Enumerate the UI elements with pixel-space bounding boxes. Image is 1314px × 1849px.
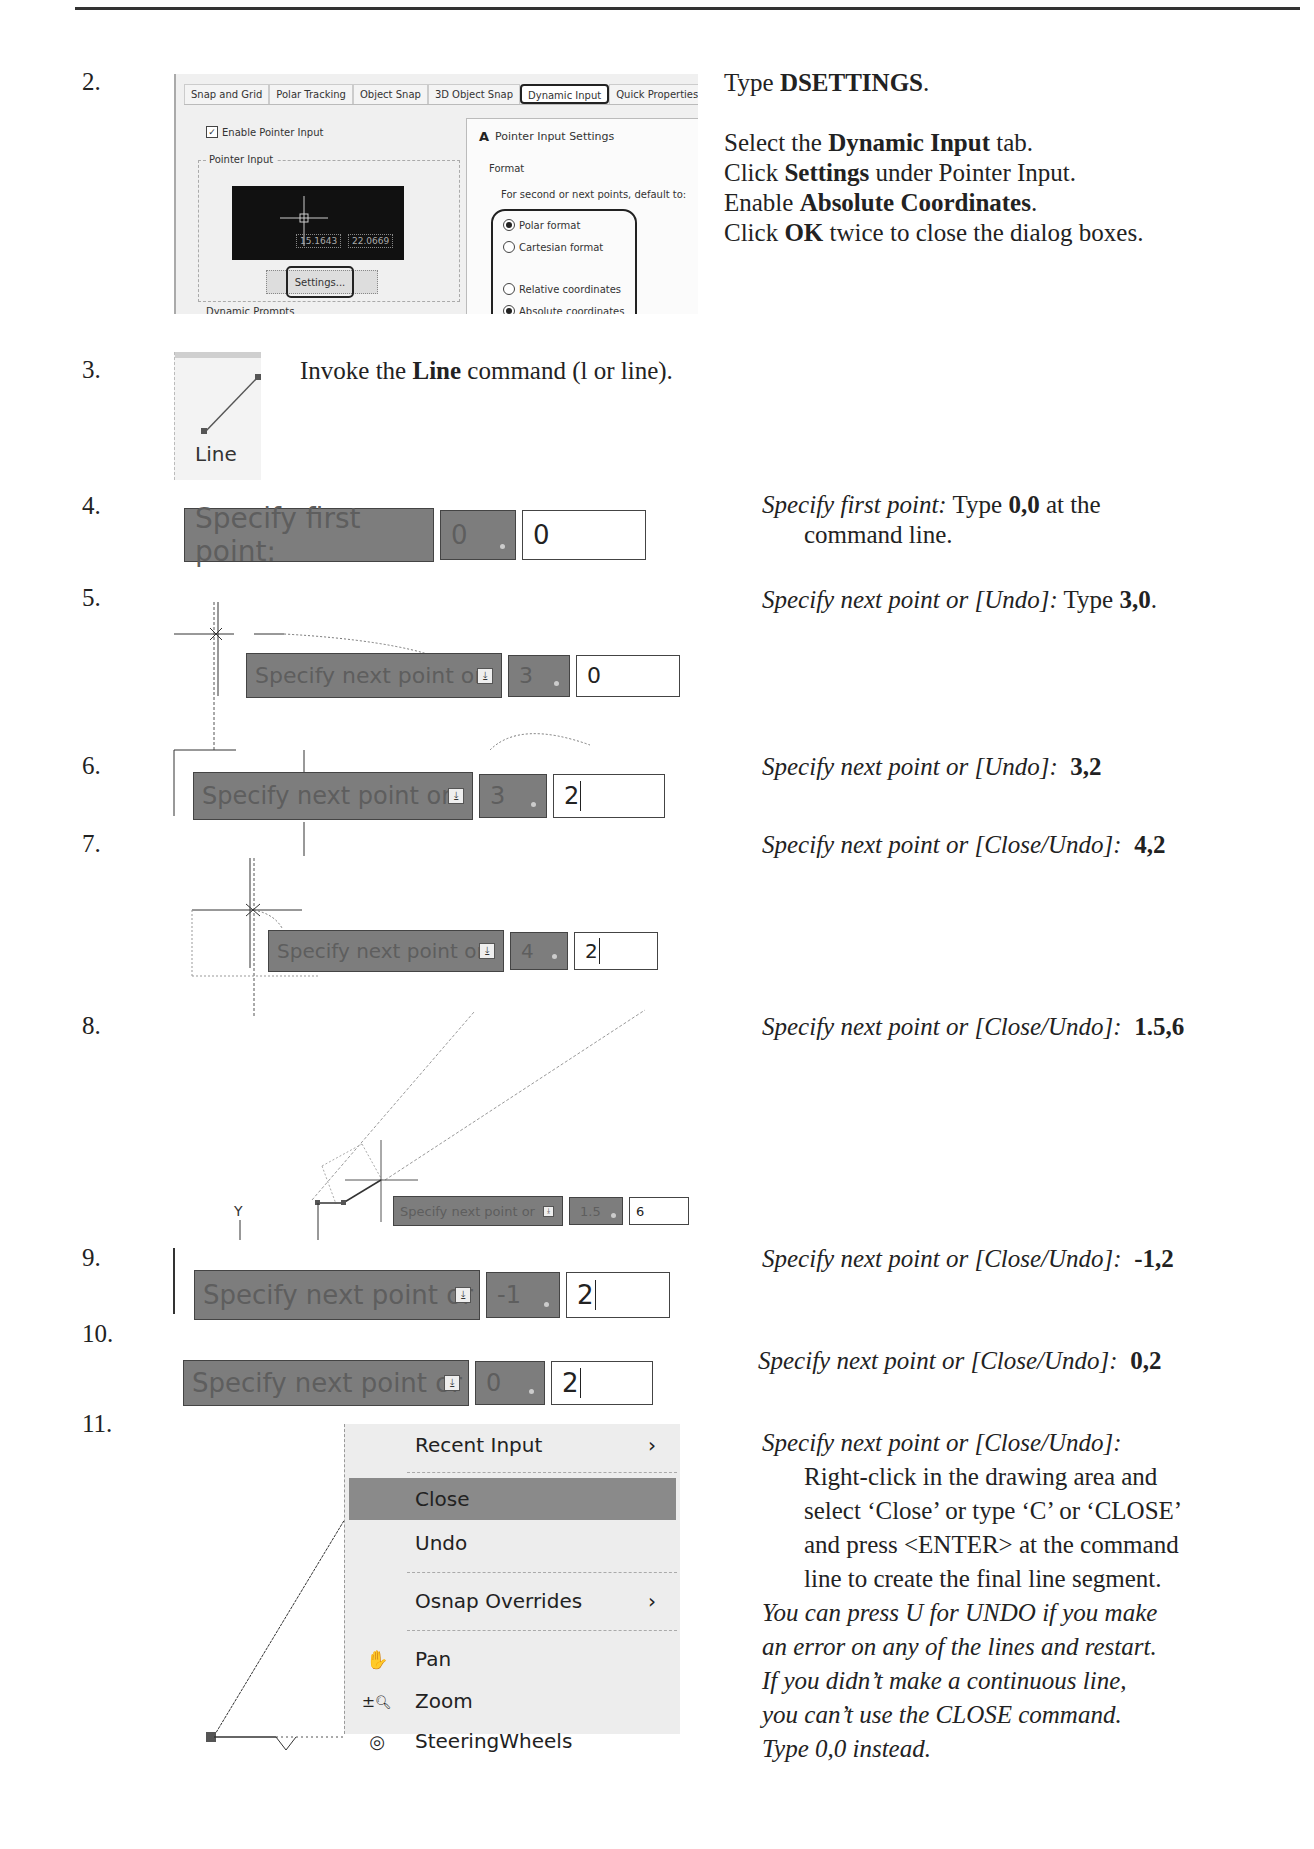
tab-polar-tracking[interactable]: Polar Tracking: [269, 84, 353, 104]
radio-polar-format[interactable]: Polar format: [503, 219, 580, 231]
prompt-label: Specify first point:: [184, 508, 434, 562]
lock-icon: [529, 1389, 534, 1394]
dynamic-input-tooltip: Specify next point or⤓ 3 0: [246, 653, 680, 698]
chevron-right-icon: ›: [648, 1589, 656, 1613]
format-options-highlight: Polar format Cartesian format Relative c…: [491, 209, 637, 314]
step-number: 8.: [82, 1012, 101, 1040]
line-icon: [175, 352, 261, 442]
dialog-tabs: Snap and Grid Polar Tracking Object Snap…: [184, 84, 698, 105]
svg-text:Y: Y: [233, 1203, 243, 1219]
x-coordinate-field[interactable]: 0: [440, 510, 516, 560]
prompt-label: Specify next point or⤓: [393, 1196, 563, 1226]
step4-instructions: Specify first point: Type 0,0 at the com…: [762, 490, 1101, 550]
zoom-icon: ±🔍︎: [359, 1692, 395, 1711]
format-question: For second or next points, default to:: [501, 189, 686, 200]
radio-cartesian-format[interactable]: Cartesian format: [503, 241, 603, 253]
step5-instructions: Specify next point or [Undo]: Type 3,0.: [762, 585, 1157, 615]
cad-triangle-drawing: [180, 1510, 355, 1750]
y-coordinate-input[interactable]: 2: [553, 774, 665, 818]
x-coordinate-field[interactable]: 0: [475, 1361, 545, 1405]
tab-quick-properties[interactable]: Quick Properties: [609, 84, 698, 104]
lock-icon: [544, 1302, 549, 1307]
step-number: 10.: [82, 1320, 113, 1348]
steering-wheel-icon: ◎: [359, 1731, 395, 1752]
download-arrow-icon[interactable]: ⤓: [444, 1375, 460, 1391]
menu-separator: [407, 1630, 677, 1632]
menu-item-recent-input[interactable]: Recent Input ›: [349, 1424, 676, 1466]
x-coordinate-field[interactable]: 3: [479, 774, 547, 818]
y-coordinate-input[interactable]: 0: [522, 510, 646, 560]
y-coordinate-input[interactable]: 0: [576, 655, 680, 697]
step-number: 3.: [82, 356, 101, 384]
hand-icon: ✋: [359, 1649, 395, 1670]
step-number: 5.: [82, 584, 101, 612]
enable-pointer-input-label: Enable Pointer Input: [222, 127, 323, 138]
lock-icon: [554, 681, 559, 686]
download-arrow-icon[interactable]: ⤓: [448, 788, 464, 804]
y-coordinate-input[interactable]: 6: [629, 1197, 689, 1225]
lock-icon: [552, 954, 557, 959]
chevron-right-icon: ›: [648, 1433, 656, 1457]
prompt-label: Specify next point or⤓: [268, 930, 504, 972]
context-menu: Recent Input › Close Undo Osnap Override…: [344, 1424, 680, 1734]
dynamic-input-tooltip: Specify next point or⤓ 4 2: [268, 930, 658, 972]
cad-line-segment: [173, 1248, 175, 1314]
pointer-input-group-label: Pointer Input: [206, 154, 276, 165]
checkmark-icon: ✓: [206, 126, 218, 138]
dynamic-input-tooltip: Specify next point or⤓ 3 2: [193, 772, 665, 820]
lock-icon: [531, 802, 536, 807]
download-arrow-icon[interactable]: ⤓: [543, 1206, 554, 1217]
x-coordinate-field[interactable]: 4: [510, 932, 568, 970]
y-coordinate-input[interactable]: 2: [566, 1272, 670, 1318]
step-number: 9.: [82, 1244, 101, 1272]
step-number: 7.: [82, 830, 101, 858]
menu-item-zoom[interactable]: ±🔍︎ Zoom: [349, 1680, 676, 1722]
step10-instructions: Specify next point or [Close/Undo]: 0,2: [758, 1346, 1161, 1376]
step6-instructions: Specify next point or [Undo]: 3,2: [762, 752, 1102, 782]
pointer-input-preview: 15.1643 22.0669: [232, 186, 404, 260]
tab-dynamic-input[interactable]: Dynamic Input: [520, 84, 609, 104]
step7-instructions: Specify next point or [Close/Undo]: 4,2: [762, 830, 1165, 860]
line-tool-button[interactable]: Line: [174, 352, 261, 480]
x-coordinate-field[interactable]: 1.5: [569, 1197, 623, 1225]
dynamic-input-tooltip: Specify next point or⤓ 1.5 6: [393, 1196, 689, 1226]
enable-pointer-input-checkbox[interactable]: ✓ Enable Pointer Input: [206, 126, 323, 138]
settings-button[interactable]: Settings...: [286, 266, 354, 298]
download-arrow-icon[interactable]: ⤓: [477, 668, 493, 684]
radio-selected-icon: [503, 219, 515, 231]
step2-instructions: Type DSETTINGS. Select the Dynamic Input…: [724, 68, 1143, 248]
preview-y-value: 22.0669: [348, 234, 393, 248]
pointer-input-settings-dialog: A Pointer Input Settings Format For seco…: [466, 118, 698, 314]
drafting-settings-dialog: Snap and Grid Polar Tracking Object Snap…: [174, 74, 698, 314]
x-coordinate-field[interactable]: -1: [486, 1272, 560, 1318]
prompt-label: Specify next point or⤓: [194, 1270, 480, 1320]
dynamic-input-tooltip: Specify next point or⤓ 0 2: [183, 1360, 653, 1406]
radio-empty-icon: [503, 241, 515, 253]
menu-item-pan[interactable]: ✋ Pan: [349, 1638, 676, 1680]
step3-instructions: Invoke the Line command (l or line).: [300, 356, 673, 386]
radio-selected-icon: [503, 305, 515, 314]
tab-snap-and-grid[interactable]: Snap and Grid: [184, 84, 269, 104]
format-label: Format: [489, 163, 524, 174]
radio-relative-coordinates[interactable]: Relative coordinates: [503, 283, 621, 295]
y-coordinate-input[interactable]: 2: [551, 1361, 653, 1405]
x-coordinate-field[interactable]: 3: [508, 655, 570, 697]
top-rule: [75, 7, 1300, 10]
download-arrow-icon[interactable]: ⤓: [479, 943, 495, 959]
step-number: 6.: [82, 752, 101, 780]
y-coordinate-input[interactable]: 2: [574, 932, 658, 970]
step-number: 4.: [82, 492, 101, 520]
tab-object-snap[interactable]: Object Snap: [353, 84, 428, 104]
menu-item-undo[interactable]: Undo: [349, 1522, 676, 1564]
prompt-label: Specify next point or⤓: [193, 772, 473, 820]
menu-item-steeringwheels[interactable]: ◎ SteeringWheels: [349, 1720, 676, 1762]
dynamic-prompts-group-label: Dynamic Prompts: [206, 306, 294, 314]
step-number: 2.: [82, 68, 101, 96]
download-arrow-icon[interactable]: ⤓: [455, 1287, 471, 1303]
tab-3d-object-snap[interactable]: 3D Object Snap: [428, 84, 520, 104]
menu-item-close[interactable]: Close: [349, 1478, 676, 1520]
menu-item-osnap-overrides[interactable]: Osnap Overrides ›: [349, 1580, 676, 1622]
radio-empty-icon: [503, 283, 515, 295]
radio-absolute-coordinates[interactable]: Absolute coordinates: [503, 305, 624, 314]
lock-icon: [500, 544, 505, 549]
